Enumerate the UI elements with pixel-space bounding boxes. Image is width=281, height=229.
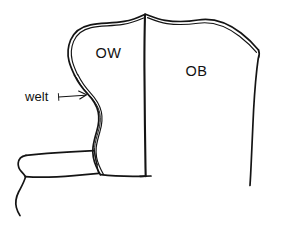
ob-shoulder-outer-line [146, 14, 259, 50]
sleeve-band-top-edge [26, 151, 94, 156]
ob-right-side-seam [250, 50, 259, 186]
ob-panel-label: OB [186, 63, 208, 79]
center-seam-line [144, 15, 145, 177]
ow-panel-label: OW [96, 45, 122, 61]
sleeve-tail-curve [16, 177, 26, 216]
welt-callout-label: welt [24, 89, 49, 104]
figure-canvas: OW OB welt [0, 0, 281, 229]
ob-shoulder-inner-line [148, 18, 257, 53]
welt-arrow-shaft [59, 95, 85, 97]
sleeve-band-left-end [18, 155, 26, 176]
sleeve-band-bottom-edge [25, 173, 98, 177]
pattern-diagram-svg: OW OB welt [0, 0, 281, 229]
ow-hem-line [101, 175, 146, 177]
